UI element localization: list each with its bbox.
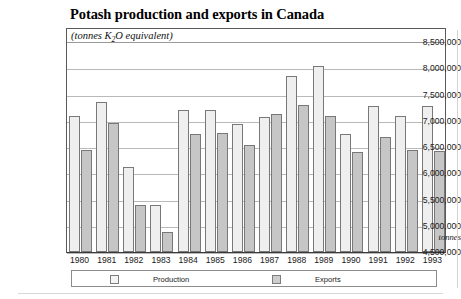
bar-group <box>312 29 339 252</box>
bar-exports-1987 <box>271 114 282 252</box>
y-axis-unit-label: tonnes <box>399 232 461 242</box>
y-axis-tick-label: 7,500,000 <box>399 90 461 100</box>
y-axis-tick-label: 5,500,000 <box>399 195 461 205</box>
bar-production-1986 <box>232 124 243 252</box>
bar-group <box>258 29 285 252</box>
bar-exports-1986 <box>244 145 255 252</box>
legend-item-exports: Exports <box>272 273 341 286</box>
bar-group <box>231 29 258 252</box>
legend-swatch-exports-icon <box>272 275 281 284</box>
bar-group <box>95 29 122 252</box>
bar-exports-1991 <box>380 137 391 253</box>
legend-swatch-production-icon <box>110 275 119 284</box>
chart-title: Potash production and exports in Canada <box>70 6 324 23</box>
chart-legend: Production Exports <box>71 270 437 287</box>
bar-production-1991 <box>368 106 379 252</box>
y-axis-tick-label: 8,000,000 <box>399 63 461 73</box>
y-axis-tick-label: 5,000,000 <box>399 221 461 231</box>
bar-group <box>367 29 394 252</box>
bar-exports-1990 <box>352 152 363 252</box>
bar-exports-1984 <box>190 134 201 252</box>
footer-rule <box>18 293 443 294</box>
bar-production-1981 <box>96 102 107 252</box>
gridline <box>67 253 445 254</box>
bar-exports-1988 <box>298 105 309 252</box>
bar-exports-1981 <box>108 123 119 252</box>
bar-exports-1983 <box>162 232 173 252</box>
bar-exports-1982 <box>135 205 146 252</box>
x-axis-tick-label: 1993 <box>412 255 452 265</box>
y-axis-tick-label: 6,500,000 <box>399 142 461 152</box>
bar-group <box>68 29 95 252</box>
y-axis-tick-label: 7,000,000 <box>399 116 461 126</box>
bar-production-1982 <box>123 167 134 252</box>
bar-group <box>204 29 231 252</box>
page-edge-rule <box>457 30 458 288</box>
bar-production-1983 <box>150 205 161 252</box>
bar-exports-1980 <box>81 150 92 252</box>
bar-production-1984 <box>178 110 189 252</box>
bar-production-1980 <box>69 116 80 253</box>
bar-group <box>149 29 176 252</box>
plot-area: (tonnes K2O equivalent) <box>66 28 446 253</box>
bar-production-1988 <box>286 76 297 252</box>
bar-exports-1985 <box>217 133 228 252</box>
bar-group <box>122 29 149 252</box>
bar-group <box>285 29 312 252</box>
bar-group <box>177 29 204 252</box>
potash-chart: Potash production and exports in Canada … <box>0 0 461 299</box>
y-axis-tick-label: 6,000,000 <box>399 168 461 178</box>
bar-production-1989 <box>313 66 324 252</box>
bar-group <box>339 29 366 252</box>
legend-label-production: Production <box>153 275 189 284</box>
legend-label-exports: Exports <box>315 275 341 284</box>
bar-production-1990 <box>340 134 351 252</box>
bar-production-1985 <box>205 110 216 252</box>
legend-item-production: Production <box>110 273 189 286</box>
y-axis-tick-label: 8,500,000 <box>399 37 461 47</box>
bar-exports-1989 <box>325 116 336 253</box>
bar-production-1987 <box>259 117 270 252</box>
